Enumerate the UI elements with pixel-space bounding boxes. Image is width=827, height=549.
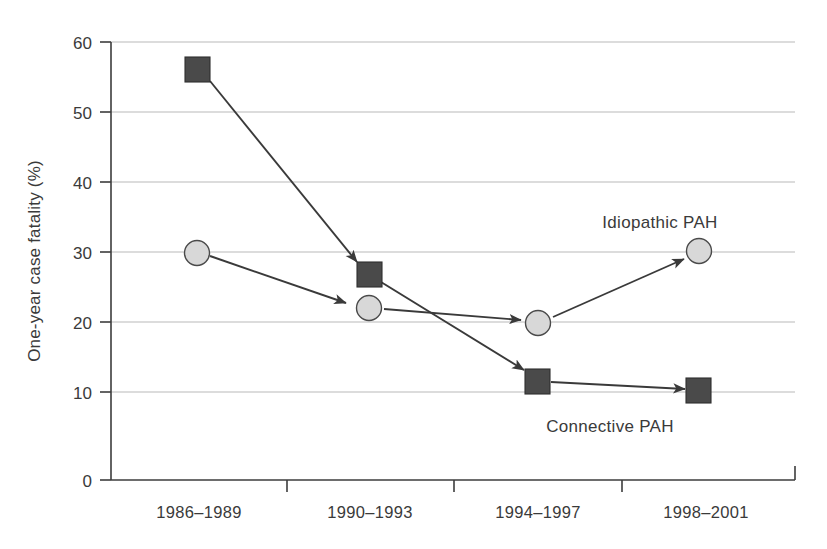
data-point-connective-1986-1989 (185, 57, 210, 82)
y-tick-label-20: 20 (73, 314, 92, 333)
data-point-idiopathic-1998-2001 (687, 239, 712, 264)
x-tick-label-1998-2001: 1998–2001 (663, 503, 748, 521)
x-tick-label-1990-1993: 1990–1993 (327, 503, 412, 521)
series-label-idiopathic-pah: Idiopathic PAH (602, 213, 717, 232)
chart-container: 60 50 40 30 20 10 0 1986–1989 1990–1993 … (0, 0, 827, 549)
data-point-idiopathic-1994-1997 (526, 311, 551, 336)
y-axis-title: One-year case fatality (%) (25, 160, 44, 362)
data-point-connective-1990-1993 (357, 262, 382, 287)
one-year-case-fatality-line-chart: 60 50 40 30 20 10 0 1986–1989 1990–1993 … (0, 0, 827, 549)
y-tick-label-50: 50 (73, 104, 92, 123)
chart-background (0, 0, 827, 549)
x-tick-label-1986-1989: 1986–1989 (156, 503, 241, 521)
y-tick-label-0: 0 (83, 472, 92, 491)
data-point-connective-1998-2001 (686, 378, 711, 403)
data-point-connective-1994-1997 (525, 369, 550, 394)
data-point-idiopathic-1990-1993 (357, 296, 382, 321)
y-tick-label-40: 40 (73, 174, 92, 193)
x-tick-label-1994-1997: 1994–1997 (495, 503, 580, 521)
y-tick-label-60: 60 (73, 34, 92, 53)
y-tick-label-30: 30 (73, 244, 92, 263)
y-tick-label-10: 10 (73, 384, 92, 403)
series-label-connective-pah: Connective PAH (546, 417, 674, 436)
data-point-idiopathic-1986-1989 (185, 241, 210, 266)
